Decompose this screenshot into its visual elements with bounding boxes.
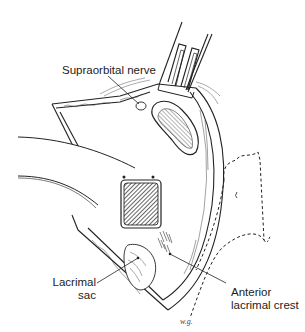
label-lacrimal-sac: Lacrimal sac <box>50 276 96 302</box>
label-anterior-line2: lacrimal crest <box>231 299 299 312</box>
crest-shading <box>158 231 172 253</box>
label-lacrimal-sac-line2: sac <box>50 289 96 302</box>
bone-window <box>121 176 161 229</box>
label-lacrimal-sac-line1: Lacrimal <box>50 276 96 289</box>
orbital-opening <box>152 101 198 154</box>
lacrimal-sac <box>124 244 156 290</box>
artist-signature: w.g. <box>180 317 193 326</box>
left-retractor <box>18 137 135 208</box>
label-anterior-lacrimal-crest: Anterior lacrimal crest <box>231 286 299 312</box>
supraorbital-nerve-structure <box>136 102 146 110</box>
surgical-illustration: w.g. Supraorbital nerve Lacrimal sac Ant… <box>0 0 305 332</box>
illustration-drawing: w.g. <box>0 0 305 332</box>
label-supraorbital-nerve: Supraorbital nerve <box>62 64 156 77</box>
label-anterior-line1: Anterior <box>231 286 299 299</box>
